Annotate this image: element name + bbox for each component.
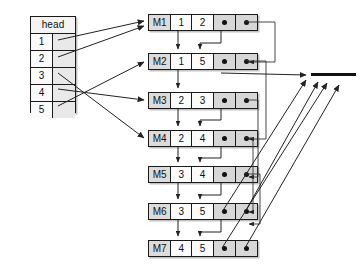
arrow-layer	[0, 0, 364, 269]
link-m7-p2-to-null	[245, 85, 339, 248]
link-m4-p1-route	[200, 147, 221, 162]
link-head5-to-m2	[58, 62, 144, 106]
link-m1-p1-route	[200, 31, 221, 49]
link-m6-p1-route	[200, 220, 221, 236]
link-head4-to-m3	[58, 89, 144, 100]
link-m6-p1-to-null	[222, 80, 306, 212]
link-m3-p1-route	[200, 109, 221, 126]
link-m1-p2-to-m2	[245, 22, 275, 62]
link-m6-p2-to-null	[245, 82, 318, 212]
link-m2-to-null	[221, 73, 306, 75]
diagram-canvas: head 1 2 3 4 5 M1 1 2 M2 1 5	[0, 0, 364, 269]
link-m7-p1-to-null	[222, 83, 327, 248]
link-head3-to-m4	[58, 73, 144, 138]
link-m5-p1-route	[200, 183, 221, 199]
